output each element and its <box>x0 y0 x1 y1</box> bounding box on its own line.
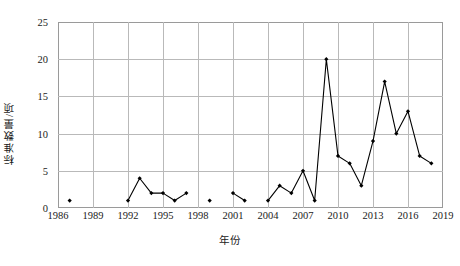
y-axis-tick-label: 15 <box>38 91 49 102</box>
data-point-marker <box>313 198 317 202</box>
x-axis-tick-labels: 1986198919921995199820012004200720102013… <box>58 210 443 228</box>
data-point-marker <box>301 169 305 173</box>
data-point-marker <box>324 57 328 61</box>
data-point-marker <box>359 184 363 188</box>
data-point-marker <box>126 198 130 202</box>
data-point-marker <box>68 198 72 202</box>
series-line <box>128 178 186 200</box>
x-axis-tick-label: 2004 <box>258 210 279 221</box>
y-axis-tick-label: 10 <box>38 128 49 139</box>
data-series-layer <box>58 22 443 208</box>
y-axis-tick-labels: 0510152025 <box>0 22 52 208</box>
series-line <box>233 193 245 200</box>
x-axis-tick-label: 1998 <box>188 210 209 221</box>
plot-area <box>58 22 443 208</box>
x-axis-tick-label: 1992 <box>118 210 139 221</box>
y-axis-tick-label: 5 <box>43 165 48 176</box>
x-axis-tick-label: 2019 <box>433 210 454 221</box>
y-axis-tick-label: 25 <box>38 17 49 28</box>
data-point-marker <box>406 109 410 113</box>
data-point-marker <box>383 79 387 83</box>
x-axis-tick-label: 1989 <box>83 210 104 221</box>
series-line <box>268 59 431 200</box>
data-point-marker <box>208 198 212 202</box>
x-axis-tick-label: 1995 <box>153 210 174 221</box>
data-point-marker <box>371 139 375 143</box>
data-point-marker <box>394 132 398 136</box>
x-axis-tick-label: 2001 <box>223 210 244 221</box>
y-axis-tick-label: 20 <box>38 54 49 65</box>
x-axis-title: 年份 <box>0 232 460 247</box>
x-axis-tick-label: 2016 <box>398 210 419 221</box>
x-axis-tick-label: 2010 <box>328 210 349 221</box>
x-axis-tick-label: 2007 <box>293 210 314 221</box>
x-axis-tick-label: 1986 <box>48 210 69 221</box>
chart-figure: 标准数量/项 0510152025 1986198919921995199820… <box>0 0 460 266</box>
x-axis-tick-label: 2013 <box>363 210 384 221</box>
